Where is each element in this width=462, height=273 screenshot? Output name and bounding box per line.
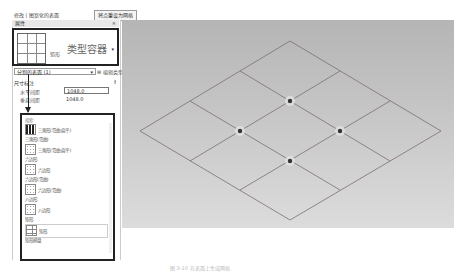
list-search-field[interactable]: 搜索 [25,117,33,123]
list-item-label: 三角形(弯曲-扁平) [38,127,71,133]
rhombus-grid [122,20,454,228]
type-name: 矩形 [50,50,60,57]
instance-filter-select[interactable]: 分割的表面 (1) ▾ [14,68,96,75]
instance-filter-label: 分割的表面 (1) [17,69,51,75]
chevron-down-icon: ▾ [90,69,93,76]
vertical-spacing-value[interactable]: 1048.0 [66,96,84,102]
list-item[interactable]: 八边形 [25,204,109,216]
list-item-label: 六边形(弯曲) [38,187,62,193]
list-item[interactable]: 六边形(弯曲) [25,184,109,196]
figure-caption: 图 3-10 在表面上生成网格 [170,264,230,271]
collapse-icon[interactable]: ⇑ [113,79,117,85]
list-item-label: 八边形 [38,207,50,213]
list-item[interactable]: 三角形(弯曲-扁平) [25,144,109,156]
list-category: 矩形棋盘 [25,238,109,244]
hexagon-pattern-icon [25,164,36,175]
list-item-label: 矩形 [39,228,47,234]
list-item-label: 三角形(弯曲-扁平) [38,147,71,153]
group-header-dimensions[interactable]: 尺寸标注 [14,79,34,86]
grid-nodes [235,96,345,166]
list-item[interactable]: 三角形(弯曲-扁平) [25,124,109,136]
properties-title-bar: 属性 × [12,20,119,27]
list-category: 三角形(弯曲) [25,137,109,143]
drawing-canvas[interactable] [122,20,454,228]
rectangle-pattern-thumbnail-icon [17,33,46,64]
triangle-pattern-icon [25,144,36,155]
ribbon-context-tab[interactable]: 修改 | 图案化的表面 [14,11,59,18]
list-category: 矩形 [25,217,109,223]
octagon-pattern-icon [25,204,36,215]
list-item-selected[interactable]: 矩形 [25,224,108,238]
list-item-label: 六边形 [38,167,50,173]
horizontal-spacing-input[interactable]: 1048.0 [64,87,109,94]
rectangle-pattern-icon [26,225,37,236]
list-item[interactable]: 六边形 [25,164,109,176]
vertical-spacing-label: 垂直间距 [20,96,40,103]
list-category: 八边形 [25,197,109,203]
properties-title: 属性 [15,20,25,27]
triangle-pattern-icon [25,124,36,135]
list-scrollbar[interactable] [109,123,112,253]
list-category: 六边形(弯曲) [25,177,109,183]
pattern-type-list[interactable]: 搜索 三角形(弯曲-扁平) 三角形(弯曲) 三角形(弯曲-扁平) 六边形 六边形… [20,113,115,261]
close-icon[interactable]: × [112,20,116,27]
list-category: 六边形 [25,157,109,163]
edit-type-button[interactable]: ⊞ 编辑类型 [97,68,123,75]
hexagon-pattern-icon [25,184,36,195]
horizontal-spacing-label: 水平间距 [20,88,40,95]
type-callout-label: 类型容器 [67,41,107,56]
chevron-down-icon[interactable]: ▾ [111,46,114,52]
edit-type-label: 编辑类型 [103,69,123,75]
type-selector[interactable]: 矩形 类型容器 ▾ [12,28,119,66]
